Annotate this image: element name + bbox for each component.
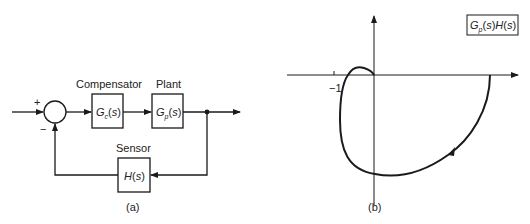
plant-label: Gp(s) bbox=[156, 106, 181, 121]
compensator-title: Compensator bbox=[76, 78, 142, 90]
feedback-path-right bbox=[151, 112, 207, 175]
nyquist-labels: −1 Gp(s)H(s) (b) bbox=[329, 19, 516, 213]
plus-sign: + bbox=[34, 96, 40, 108]
caption-a: (a) bbox=[126, 201, 139, 213]
direction-arrow-icon bbox=[448, 147, 455, 156]
nyquist-plot bbox=[287, 15, 518, 205]
caption-b: (b) bbox=[368, 201, 381, 213]
sensor-label: H(s) bbox=[124, 170, 145, 182]
minus-sign: − bbox=[40, 123, 46, 135]
nyquist-curve bbox=[340, 67, 490, 175]
summing-junction bbox=[44, 101, 66, 123]
minus-one-label: −1 bbox=[329, 82, 342, 94]
feedback-path-left bbox=[55, 124, 118, 175]
figure: + − Compensator Gc(s) Plant Gp(s) Sensor… bbox=[0, 0, 530, 224]
transfer-function-label: Gp(s)H(s) bbox=[470, 19, 516, 34]
sensor-title: Sensor bbox=[116, 142, 151, 154]
plant-title: Plant bbox=[156, 78, 181, 90]
block-labels: + − Compensator Gc(s) Plant Gp(s) Sensor… bbox=[34, 78, 181, 213]
compensator-label: Gc(s) bbox=[96, 106, 121, 120]
